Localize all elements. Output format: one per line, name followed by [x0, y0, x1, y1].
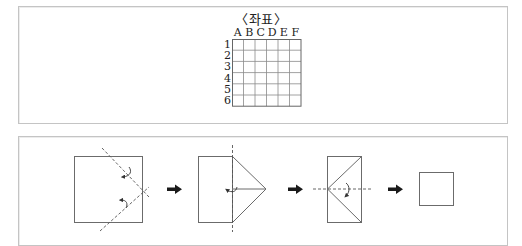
right-arrow-icon [167, 185, 182, 195]
dashed-fold-line [100, 187, 149, 231]
dashed-fold-line [102, 148, 149, 197]
paper-rectangle [328, 157, 362, 223]
right-arrow-icon [288, 185, 303, 195]
final-square [420, 173, 454, 206]
fold-step-1 [75, 148, 150, 231]
right-arrow-icon [388, 185, 403, 195]
curved-fold-arrow-icon [123, 167, 131, 177]
paper-rectangle [199, 157, 233, 223]
paper-square [75, 157, 143, 223]
curved-fold-arrow-icon [346, 183, 349, 196]
fold-step-3 [313, 157, 372, 223]
fold-step-4 [420, 173, 454, 206]
curved-fold-arrow-icon [121, 200, 127, 208]
diagonal-line [328, 157, 362, 190]
fold-step-2 [199, 145, 267, 232]
diagonal-line [328, 189, 362, 223]
